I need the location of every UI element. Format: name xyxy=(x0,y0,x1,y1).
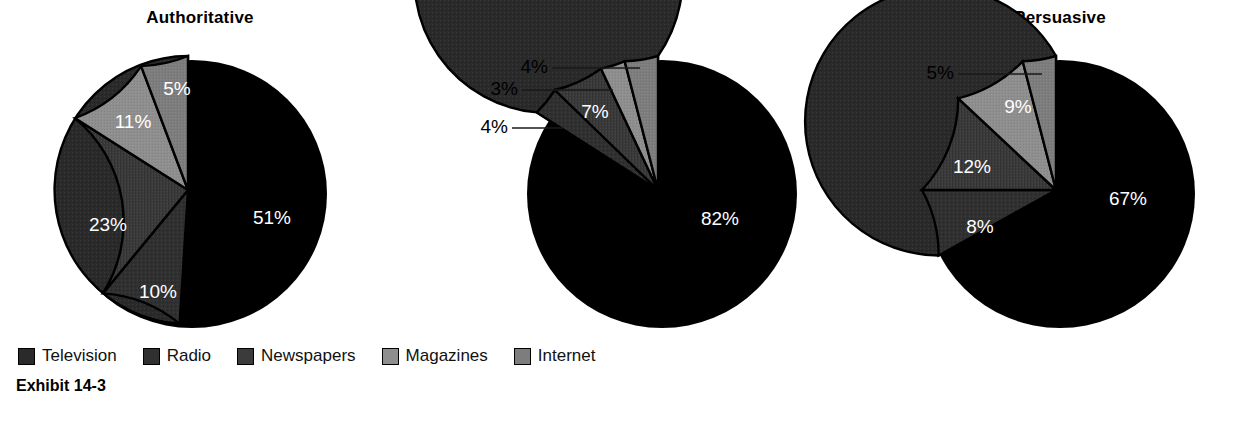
slice-value-television: 67% xyxy=(1109,188,1147,209)
legend-swatch-internet xyxy=(514,348,531,365)
callout-value-magazines: 3% xyxy=(491,78,519,99)
slice-value-radio: 10% xyxy=(139,281,177,302)
pie-panel-persuasive: Persuasive 67% 8% 12% 9% 5% xyxy=(820,0,1258,340)
legend-label-newspapers: Newspapers xyxy=(261,346,356,366)
exhibit-caption xyxy=(16,412,1116,422)
pie-panel-authoritative: Authoritative 51% 10% 23% 11% 5% xyxy=(0,0,400,340)
pie-svg-persuasive: 67% 8% 12% 9% 5% xyxy=(820,28,1258,340)
legend-label-television: Television xyxy=(42,346,117,366)
slice-value-television: 51% xyxy=(253,207,291,228)
legend-swatch-radio xyxy=(143,348,160,365)
legend-label-radio: Radio xyxy=(167,346,211,366)
pie-svg-influential: 82% 7% 4% 3% 4% xyxy=(400,28,820,340)
chart-title-authoritative: Authoritative xyxy=(0,8,400,28)
slice-value-magazines: 9% xyxy=(1004,96,1032,117)
pie-panel-influential: Influential 82% 7% 4% xyxy=(400,0,820,340)
legend-label-internet: Internet xyxy=(538,346,596,366)
exhibit-figure: Authoritative 51% 10% 23% 11% 5% xyxy=(0,0,1258,422)
pie-chart-persuasive: 67% 8% 12% 9% 5% xyxy=(820,28,1258,340)
pie-chart-influential: 82% 7% 4% 3% 4% xyxy=(400,28,820,340)
slice-value-newspapers: 23% xyxy=(89,214,127,235)
legend-swatch-newspapers xyxy=(237,348,254,365)
legend-item-newspapers[interactable]: Newspapers xyxy=(237,346,356,366)
callout-value-internet: 5% xyxy=(927,62,955,83)
legend-label-magazines: Magazines xyxy=(406,346,488,366)
legend-item-radio[interactable]: Radio xyxy=(143,346,211,366)
pie-svg-authoritative: 51% 10% 23% 11% 5% xyxy=(0,28,400,340)
slice-value-radio: 8% xyxy=(966,216,994,237)
legend: Television Radio Newspapers Magazines In… xyxy=(18,344,621,368)
pie-chart-authoritative: 51% 10% 23% 11% 5% xyxy=(0,28,400,340)
legend-item-magazines[interactable]: Magazines xyxy=(382,346,488,366)
callout-value-radio: 4% xyxy=(481,116,509,137)
slice-value-newspapers: 12% xyxy=(953,156,991,177)
slice-value-magazines: 11% xyxy=(115,111,152,132)
legend-swatch-television xyxy=(18,348,35,365)
legend-swatch-magazines xyxy=(382,348,399,365)
callout-value-internet: 4% xyxy=(521,56,549,77)
slice-value-newspapers: 7% xyxy=(581,101,609,122)
slice-value-internet: 5% xyxy=(163,78,191,99)
exhibit-label: Exhibit 14-3 xyxy=(16,377,106,395)
slice-value-television: 82% xyxy=(701,208,739,229)
legend-item-internet[interactable]: Internet xyxy=(514,346,596,366)
legend-item-television[interactable]: Television xyxy=(18,346,117,366)
